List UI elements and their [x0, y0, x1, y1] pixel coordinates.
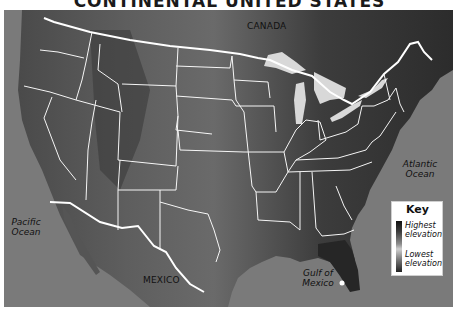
map-graphic: [4, 10, 453, 307]
label-gulf-of-mexico: Gulf of Mexico: [300, 268, 336, 288]
pacific-line2: Ocean: [8, 227, 44, 237]
gulf-line1: Gulf of: [300, 268, 336, 278]
elevation-gradient-bar: [396, 221, 402, 272]
label-canada: CANADA: [247, 21, 286, 31]
atlantic-line2: Ocean: [400, 169, 440, 179]
map-key: Key Highest elevation Lowest elevation: [391, 201, 443, 276]
label-atlantic-ocean: Atlantic Ocean: [400, 159, 440, 179]
key-lowest: Lowest elevation: [405, 250, 442, 268]
key-title: Key: [406, 203, 429, 216]
key-lowest-line2: elevation: [405, 259, 442, 268]
key-lowest-line1: Lowest: [405, 250, 442, 259]
elevation-map: [4, 10, 453, 307]
label-mexico: MEXICO: [143, 275, 180, 285]
pacific-line1: Pacific: [8, 217, 44, 227]
key-highest-line1: Highest: [405, 221, 442, 230]
gulf-line2: Mexico: [300, 278, 336, 288]
key-highest-line2: elevation: [405, 230, 442, 239]
atlantic-line1: Atlantic: [400, 159, 440, 169]
label-pacific-ocean: Pacific Ocean: [8, 217, 44, 237]
city-marker: [340, 281, 345, 286]
key-highest: Highest elevation: [405, 221, 442, 239]
